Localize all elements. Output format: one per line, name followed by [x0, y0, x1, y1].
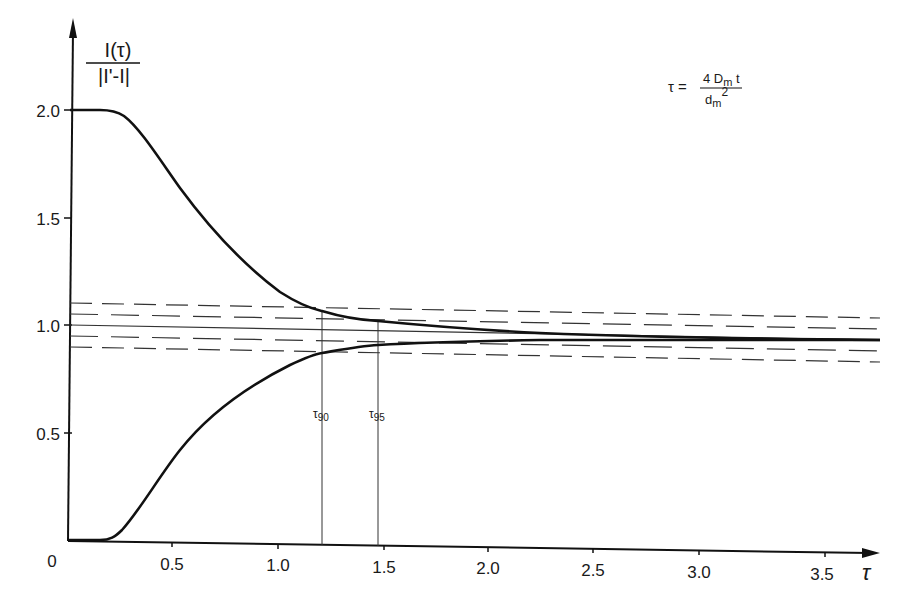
y-tick-label: 0.5 — [36, 425, 60, 444]
x-tick-label: 3.5 — [810, 565, 834, 584]
x-axis-label: τ — [862, 560, 872, 585]
ref-line-1.10 — [70, 303, 880, 318]
y-tick-label: 1.0 — [36, 317, 60, 336]
y-axis — [68, 30, 73, 541]
reference-lines — [70, 303, 880, 362]
x-tick-label: 2.0 — [476, 559, 500, 578]
x-tick-label: 1.0 — [266, 556, 290, 575]
tau90-label: τ90 — [313, 407, 329, 423]
x-tick-label: 3.0 — [687, 563, 711, 582]
formula-lhs: τ = — [668, 78, 687, 95]
plot-svg: I(τ) |I'-I| τ = 4 Dm t dm2 2.0 1.5 1.0 0… — [0, 0, 921, 616]
lower-curve — [68, 340, 880, 540]
tau95-label: τ95 — [369, 407, 385, 423]
y-tick-label: 2.0 — [36, 102, 60, 121]
x-axis-arrow-icon — [862, 548, 880, 558]
ylabel-denominator: |I'-I| — [98, 65, 130, 87]
y-axis-arrow-icon — [69, 18, 77, 38]
chart: I(τ) |I'-I| τ = 4 Dm t dm2 2.0 1.5 1.0 0… — [0, 0, 921, 616]
x-tick-label: 2.5 — [581, 561, 605, 580]
x-axis — [68, 541, 870, 553]
x-tick-label: 0 — [47, 552, 56, 571]
upper-curve — [70, 110, 880, 340]
x-tick-label: 1.5 — [372, 558, 396, 577]
y-tick-label: 1.5 — [36, 210, 60, 229]
ref-line-0.90 — [70, 347, 880, 362]
ylabel-numerator: I(τ) — [105, 39, 132, 61]
x-tick-label: 0.5 — [160, 555, 184, 574]
